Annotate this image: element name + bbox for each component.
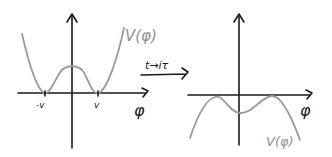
left-x-axis-label: φ: [134, 101, 145, 120]
right-x-axis-label: φ: [300, 101, 311, 120]
left-potential-curve: [22, 28, 124, 93]
right-panel: φ V(φ): [188, 14, 312, 149]
left-tick-label-neg-v: -v: [36, 100, 45, 110]
transform-label: t→iτ: [145, 59, 169, 72]
wick-rotation-arrow: t→iτ: [141, 59, 188, 79]
left-panel: -v v φ V(φ): [18, 14, 157, 148]
right-curve-label: V(φ): [266, 134, 294, 149]
wick-rotation-diagram: -v v φ V(φ) t→iτ φ V(φ): [0, 0, 332, 157]
left-tick-label-pos-v: v: [94, 100, 100, 110]
left-curve-label: V(φ): [125, 27, 157, 45]
